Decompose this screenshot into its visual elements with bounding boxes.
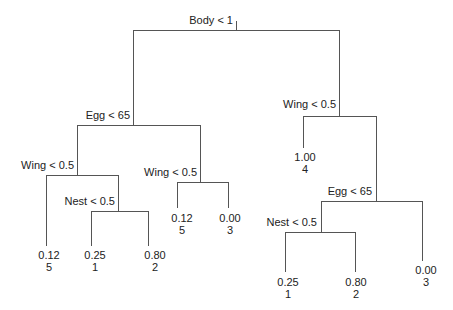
node-right-right: Egg < 65	[321, 116, 422, 202]
leaf-r2: 0.25 1	[277, 232, 298, 300]
leaf-value: 0.00	[219, 212, 240, 224]
split-label-root: Body < 1	[189, 14, 233, 26]
split-label-left-left: Wing < 0.5	[21, 159, 74, 171]
leaf-value: 0.80	[144, 249, 165, 261]
split-label-right-right-left: Nest < 0.5	[267, 216, 317, 228]
node-root: Body < 1	[133, 14, 339, 31]
node-right: Wing < 0.5	[283, 30, 376, 117]
leaf-count: 5	[179, 224, 185, 236]
leaf-value: 0.12	[38, 249, 59, 261]
node-right-right-left: Nest < 0.5	[267, 201, 355, 233]
leaf-count: 2	[152, 261, 158, 273]
split-label-left-right: Wing < 0.5	[144, 166, 197, 178]
leaf-r4: 0.00 3	[415, 201, 436, 288]
decision-tree: Body < 1 Egg < 65 Wing < 0.5 0.12 5 Nest…	[0, 0, 453, 310]
split-label-right: Wing < 0.5	[283, 98, 336, 110]
leaf-l5: 0.00 3	[219, 182, 240, 236]
leaf-count: 3	[227, 224, 233, 236]
leaf-l3: 0.80 2	[144, 211, 165, 273]
leaf-value: 0.80	[345, 276, 366, 288]
node-left-left: Wing < 0.5	[21, 125, 118, 176]
leaf-l2: 0.25 1	[84, 211, 105, 273]
leaf-value: 0.00	[415, 264, 436, 276]
node-left-right: Wing < 0.5	[144, 125, 228, 183]
leaf-count: 5	[46, 261, 52, 273]
leaf-r3: 0.80 2	[345, 232, 366, 300]
split-label-left-left-right: Nest < 0.5	[65, 195, 115, 207]
leaf-l4: 0.12 5	[171, 182, 192, 236]
leaf-value: 0.25	[84, 249, 105, 261]
leaf-count: 4	[302, 163, 308, 175]
leaf-value: 1.00	[294, 151, 315, 163]
leaf-l1: 0.12 5	[38, 175, 59, 273]
split-label-left: Egg < 65	[86, 109, 130, 121]
node-left-left-right: Nest < 0.5	[65, 175, 148, 212]
leaf-count: 3	[423, 276, 429, 288]
leaf-value: 0.12	[171, 212, 192, 224]
leaf-count: 2	[353, 288, 359, 300]
leaf-count: 1	[92, 261, 98, 273]
leaf-r1: 1.00 4	[294, 116, 315, 175]
split-label-right-right: Egg < 65	[328, 185, 372, 197]
leaf-value: 0.25	[277, 276, 298, 288]
node-left: Egg < 65	[77, 30, 200, 126]
leaf-count: 1	[285, 288, 291, 300]
